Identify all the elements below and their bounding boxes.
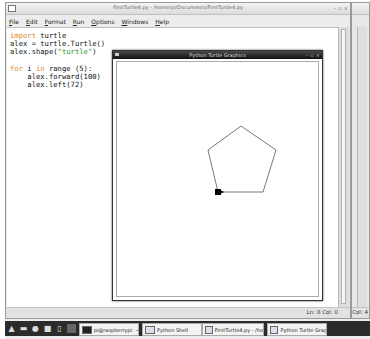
turtle-icon [215, 189, 224, 195]
scrollbar-thumb[interactable] [341, 29, 346, 304]
window-icon [145, 326, 155, 334]
editor-statusbar: Ln: 8 Col: 0 [6, 307, 350, 318]
menu-icon[interactable]: ▲ [7, 324, 16, 333]
menu-edit[interactable]: Edit [26, 18, 38, 25]
turtle-graphics-window: Python Turtle Graphics – ▫ × [112, 50, 323, 301]
minimize-button[interactable]: – [334, 5, 337, 11]
turtle-canvas[interactable] [116, 61, 319, 297]
menu-help[interactable]: Help [155, 18, 169, 25]
terminal-icon [82, 326, 92, 334]
files-icon[interactable]: ■ [43, 324, 52, 333]
pentagon-shape [208, 126, 276, 192]
minimize-button[interactable]: – [306, 53, 309, 58]
taskbar-panel: ▲ ▬ ● ■ ▯ pi@raspberrypi: ~ Python Shell… [5, 321, 370, 336]
turtle-title: Python Turtle Graphics [113, 51, 322, 59]
background-scrollbar[interactable] [357, 27, 367, 308]
window-icon [205, 326, 213, 334]
cursor-position: Ln: 8 Col: 0 [307, 309, 338, 315]
turtle-titlebar[interactable]: Python Turtle Graphics – ▫ × [113, 51, 322, 59]
task-label: Python Shell [157, 327, 188, 333]
maximize-button[interactable]: ▫ [310, 53, 313, 58]
background-titlebar[interactable] [352, 3, 369, 15]
editor-title: FirstTurtle4.py - /home/pi/Documents/Fir… [6, 4, 350, 10]
task-label: pi@raspberrypi: ~ [94, 327, 138, 333]
task-python-shell[interactable]: Python Shell [142, 323, 202, 336]
maximize-button[interactable]: ▫ [338, 5, 341, 11]
menu-windows[interactable]: Windows [122, 18, 149, 25]
terminal-icon[interactable]: ▬ [19, 324, 28, 333]
pentagon-drawing [117, 62, 320, 298]
menu-bar: File Edit Format Run Options Windows Hel… [6, 15, 350, 27]
blank-icon[interactable] [67, 324, 76, 333]
task-turtle-graphics[interactable]: Python Turtle Graphics [267, 323, 327, 336]
window-icon [270, 326, 278, 334]
editor-scrollbar[interactable] [338, 27, 349, 308]
task-editor[interactable]: FirstTurtle4.py - /home/pi... [202, 323, 264, 336]
background-cursor-position: Col: 4 [352, 309, 368, 315]
close-button[interactable]: × [344, 5, 348, 11]
menu-options[interactable]: Options [91, 18, 114, 25]
task-terminal[interactable]: pi@raspberrypi: ~ [79, 323, 139, 336]
code-line: alex.shape("turtle") [10, 48, 105, 56]
code-line: alex.left(72) [10, 81, 105, 89]
taskbar: ▲ ▬ ● ■ ▯ pi@raspberrypi: ~ Python Shell… [5, 319, 370, 339]
background-window[interactable]: Col: 4 [351, 2, 370, 319]
close-button[interactable]: × [316, 53, 320, 58]
menu-format[interactable]: Format [45, 18, 66, 25]
task-label: FirstTurtle4.py - /home/pi... [215, 327, 263, 333]
task-label: Python Turtle Graphics [280, 327, 326, 333]
editor-titlebar[interactable]: FirstTurtle4.py - /home/pi/Documents/Fir… [6, 3, 350, 15]
menu-file[interactable]: File [9, 18, 19, 25]
background-statusbar: Col: 4 [352, 307, 369, 318]
code-text[interactable]: import turtlealex = turtle.Turtle()alex.… [10, 32, 105, 89]
browser-icon[interactable]: ● [31, 324, 40, 333]
menu-run[interactable]: Run [73, 18, 85, 25]
text-editor-icon[interactable]: ▯ [55, 324, 64, 333]
